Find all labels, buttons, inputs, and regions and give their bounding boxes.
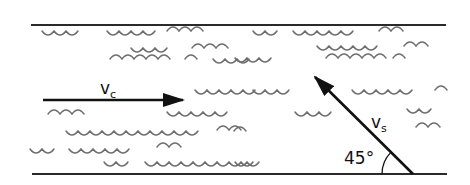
current-velocity-subscript: c — [110, 88, 116, 101]
wave-line — [407, 109, 431, 113]
wave-line — [30, 149, 54, 153]
wave-line — [167, 112, 227, 116]
wave-line — [185, 55, 197, 59]
wave-line — [404, 42, 428, 46]
wave-line — [157, 143, 181, 147]
wave-line — [393, 54, 405, 58]
wave-line — [192, 44, 228, 48]
wave-line — [352, 90, 412, 94]
river-crossing-diagram: vc vs 45° — [0, 0, 470, 185]
wave-line — [131, 48, 167, 52]
wave-line — [69, 149, 129, 153]
wave-line — [379, 27, 403, 31]
wave-line — [235, 58, 271, 62]
angle-label: 45° — [344, 148, 374, 168]
wave-line — [110, 55, 170, 59]
wave-line — [326, 54, 386, 58]
wave-line — [195, 90, 255, 94]
wave-line — [42, 31, 78, 35]
swimmer-velocity-label: vs — [371, 112, 387, 135]
wave-line — [416, 123, 440, 127]
wave-line — [107, 31, 155, 35]
swimmer-velocity-subscript: s — [381, 122, 387, 135]
wave-line — [48, 110, 84, 114]
wave-line — [317, 46, 377, 50]
wave-line — [253, 31, 277, 35]
angle-arc — [382, 152, 391, 174]
current-velocity-label: vc — [100, 78, 116, 101]
wave-line — [167, 27, 203, 31]
wave-line — [293, 31, 353, 35]
current-velocity-symbol: v — [100, 78, 110, 98]
swimmer-velocity-symbol: v — [371, 112, 381, 132]
wave-line — [104, 162, 128, 166]
wave-line — [295, 112, 331, 116]
wave-line — [66, 131, 198, 135]
wave-line — [435, 86, 447, 90]
wave-line — [253, 90, 289, 94]
